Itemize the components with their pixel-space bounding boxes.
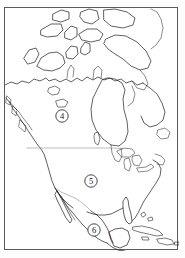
label-text-6: 6 [92, 225, 96, 235]
coast-range-detail [9, 101, 32, 130]
ellesmere-island [104, 9, 135, 28]
devon-island [79, 29, 103, 42]
us-canada-border [27, 148, 123, 149]
ellef-ringnes-island [53, 10, 69, 22]
ungava-labrador-coast [141, 83, 165, 127]
mexico-pacific-coast [55, 188, 107, 243]
bahamas-2 [148, 217, 153, 221]
florida-peninsula [123, 197, 132, 224]
yucatan-peninsula [109, 228, 130, 248]
boothia-peninsula [67, 65, 74, 78]
label-canada-4[interactable]: 4 [56, 110, 68, 122]
axel-heiberg-island [80, 9, 99, 24]
north-america-map: 4 5 6 [5, 8, 179, 251]
melville-island [41, 24, 63, 37]
label-united-states-5[interactable]: 5 [85, 175, 97, 187]
bahamas [141, 212, 146, 217]
label-text-5: 5 [89, 176, 93, 186]
baffin-island [104, 35, 151, 70]
puerto-rico [175, 242, 179, 245]
baffin-southeast-coast [132, 70, 148, 90]
alaska-panhandle-islands [6, 96, 11, 105]
james-bay [111, 145, 122, 162]
hispaniola [157, 238, 174, 245]
us-east-coast [132, 160, 161, 221]
bathurst-island [65, 26, 77, 40]
victoria-island [37, 52, 65, 71]
greenland-edge [151, 9, 163, 49]
newfoundland [157, 128, 170, 139]
lake-huron [132, 155, 142, 166]
lake-superior [117, 148, 135, 157]
hudson-bay [91, 78, 128, 146]
somerset-island [81, 42, 90, 55]
lake-michigan [124, 158, 131, 171]
ungava-bay [128, 86, 135, 106]
gulf-coast [87, 208, 123, 215]
great-bear-lake [48, 86, 60, 95]
great-slave-lake [56, 99, 68, 107]
map-frame: 4 5 6 [4, 7, 178, 250]
prince-of-wales-island [66, 46, 78, 59]
map-figure: 4 5 6 [0, 0, 185, 258]
banks-island [24, 48, 39, 64]
jamaica [142, 237, 149, 240]
cuba [133, 226, 163, 236]
label-mexico-6[interactable]: 6 [88, 224, 100, 236]
new-england-coast [155, 154, 165, 165]
